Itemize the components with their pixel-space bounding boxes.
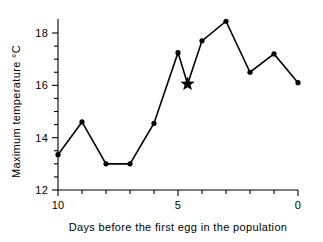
data-point-star bbox=[180, 77, 194, 91]
data-point bbox=[79, 119, 84, 124]
data-point bbox=[175, 50, 180, 55]
data-point bbox=[55, 152, 60, 157]
y-axis-title: Maximum temperature °C bbox=[10, 45, 22, 178]
y-tick-label: 12 bbox=[35, 184, 48, 196]
data-point bbox=[103, 161, 108, 166]
data-point bbox=[223, 19, 228, 24]
data-point bbox=[247, 70, 252, 75]
y-tick-label: 18 bbox=[35, 27, 48, 39]
x-axis-title: Days before the first egg in the populat… bbox=[69, 221, 288, 233]
y-axis-tick-labels: 12141618 bbox=[35, 27, 48, 196]
y-tick-label: 16 bbox=[35, 79, 48, 91]
data-point bbox=[199, 38, 204, 43]
x-tick-label: 5 bbox=[175, 199, 181, 211]
data-line-series bbox=[58, 21, 298, 164]
data-point bbox=[127, 161, 132, 166]
data-point bbox=[295, 80, 300, 85]
data-point bbox=[271, 51, 276, 56]
chart-plot-area: 12141618 1050 Maximum temperature °C Day… bbox=[0, 0, 323, 242]
y-tick-label: 14 bbox=[35, 132, 48, 144]
x-axis-tick-labels: 1050 bbox=[52, 199, 301, 211]
x-axis-tick-marks bbox=[58, 190, 298, 196]
data-point bbox=[151, 121, 156, 126]
y-axis-tick-marks bbox=[52, 33, 58, 190]
data-point-markers bbox=[55, 19, 300, 167]
x-tick-label: 10 bbox=[52, 199, 65, 211]
chart-figure: 12141618 1050 Maximum temperature °C Day… bbox=[0, 0, 323, 242]
x-tick-label: 0 bbox=[295, 199, 301, 211]
